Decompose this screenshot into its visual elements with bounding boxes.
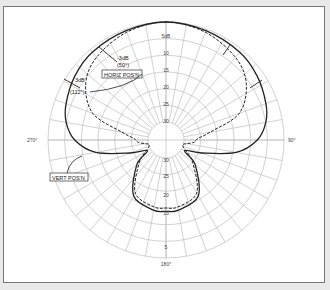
radial-label-20: 20 xyxy=(163,84,169,90)
radial-label-5db: 5dB xyxy=(162,33,172,39)
radial-label-lower-25: 25 xyxy=(163,173,169,179)
polar-chart: 5dB 10 15 20 25 30 30 25 20 15 5 90° 180… xyxy=(0,0,330,290)
radial-label-lower-15: 15 xyxy=(163,210,169,216)
annotation-3db: 3dB xyxy=(75,77,85,83)
radial-label-30: 30 xyxy=(163,118,169,124)
radial-label-25: 25 xyxy=(163,101,169,107)
legend-vert-label: VERT POS'N xyxy=(52,175,85,181)
tick-right-upper xyxy=(223,45,230,55)
radial-label-lower-30: 30 xyxy=(163,157,169,163)
legend-horiz-label: HORIZ POS'N xyxy=(104,72,139,78)
annotation-minus3db: -3dB xyxy=(117,55,129,61)
radial-label-lower-5: 5 xyxy=(165,244,168,250)
angle-label-90: 90° xyxy=(288,137,296,143)
angle-label-180: 180° xyxy=(161,261,171,267)
annotation-50deg: (50°) xyxy=(117,62,129,68)
tick-minus3db-50 xyxy=(99,47,117,62)
angle-label-270: 270° xyxy=(27,137,37,143)
polar-grid xyxy=(48,22,284,258)
radial-label-15: 15 xyxy=(163,67,169,73)
radial-label-lower-20: 20 xyxy=(163,192,169,198)
annotation-112deg: (112°) xyxy=(70,89,85,95)
radial-label-10: 10 xyxy=(163,50,169,56)
